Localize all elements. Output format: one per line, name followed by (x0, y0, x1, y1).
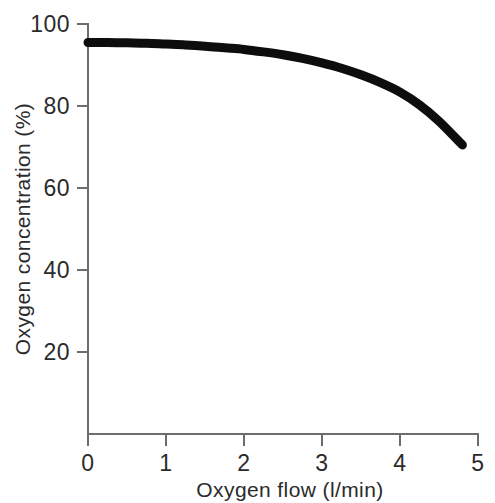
x-axis-title: Oxygen flow (l/min) (196, 478, 383, 501)
x-tick-label-5: 5 (471, 450, 484, 476)
x-tick-label-2: 2 (237, 450, 250, 476)
y-tick-label-40: 40 (43, 257, 70, 283)
chart-background (0, 0, 495, 503)
oxygen-concentration-line-chart: 100 80 60 40 20 0 1 2 3 4 5 Oxygen flow (0, 0, 495, 503)
y-tick-label-100: 100 (30, 11, 70, 37)
y-axis-title: Oxygen concentration (%) (11, 103, 34, 355)
y-tick-label-20: 20 (43, 339, 70, 365)
x-tick-label-0: 0 (81, 450, 94, 476)
x-tick-label-3: 3 (315, 450, 328, 476)
x-tick-label-4: 4 (393, 450, 406, 476)
y-tick-label-80: 80 (43, 93, 70, 119)
y-tick-label-60: 60 (43, 175, 70, 201)
x-tick-label-1: 1 (159, 450, 172, 476)
chart-figure: 100 80 60 40 20 0 1 2 3 4 5 Oxygen flow (0, 0, 495, 503)
